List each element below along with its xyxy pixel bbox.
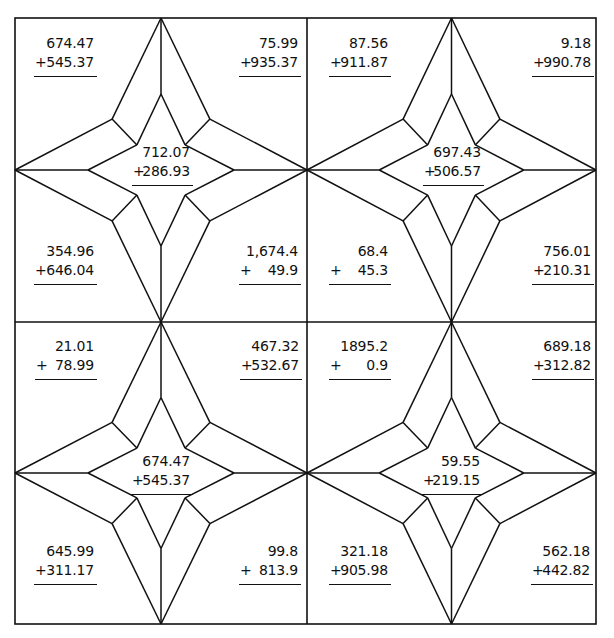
star-outer-edge xyxy=(210,119,307,170)
problem-c3-top-left: 1895.2 +0.9 xyxy=(329,337,391,381)
plus-sign: + xyxy=(35,561,47,580)
addend-2: 990.78 xyxy=(543,53,591,72)
problem-c2-bottom-right: 99.8 +813.9 xyxy=(239,542,301,586)
answer-line xyxy=(240,379,302,380)
problem-c0-bottom-left: 354.96 +646.04 xyxy=(34,242,97,286)
addend-1: 674.47 xyxy=(46,34,94,53)
plus-sign: + xyxy=(36,356,48,375)
answer-line xyxy=(35,379,97,380)
addend-1: 1895.2 xyxy=(340,337,388,356)
star-inner-edge xyxy=(452,498,476,549)
problem-c1-bottom-right: 756.01 +210.31 xyxy=(532,242,594,286)
problem-c0-bottom-right: 1,674.4 +49.9 xyxy=(239,242,301,286)
addend-2: 442.82 xyxy=(542,561,590,580)
star-shoulder-connector xyxy=(475,422,500,448)
addend-2: 311.17 xyxy=(46,561,94,580)
problem-c1-bottom-left: 68.4 +45.3 xyxy=(329,242,391,286)
plus-sign: + xyxy=(330,356,342,375)
star-outer-edge xyxy=(403,322,451,422)
star-outer-edge xyxy=(500,170,596,221)
star-outer-edge xyxy=(500,119,596,170)
star-outer-edge xyxy=(307,473,403,524)
answer-line xyxy=(239,584,301,585)
star-outer-edge xyxy=(307,422,403,473)
plus-sign: + xyxy=(240,561,252,580)
star-outer-edge xyxy=(15,170,112,221)
answer-line xyxy=(329,584,391,585)
addend-2: 646.04 xyxy=(46,261,94,280)
plus-sign: + xyxy=(35,53,47,72)
answer-line xyxy=(422,494,483,495)
addend-1: 1,674.4 xyxy=(246,242,298,261)
addend-1: 712.07 xyxy=(142,143,190,162)
addend-1: 99.8 xyxy=(268,542,298,561)
answer-line xyxy=(329,284,391,285)
addend-1: 21.01 xyxy=(55,337,94,356)
star-outer-edge xyxy=(161,524,210,624)
star-outer-edge xyxy=(210,170,307,221)
star-inner-edge xyxy=(428,195,452,246)
star-inner-edge xyxy=(379,145,427,170)
star-outer-edge xyxy=(210,422,307,473)
addend-1: 321.18 xyxy=(340,542,388,561)
answer-line xyxy=(423,185,484,186)
answer-line xyxy=(329,379,391,380)
answer-line xyxy=(239,76,301,77)
answer-line xyxy=(132,185,193,186)
star-inner-edge xyxy=(428,94,452,145)
addend-2: 532.67 xyxy=(251,356,299,375)
addend-2: 545.37 xyxy=(142,471,190,490)
addend-1: 9.18 xyxy=(561,34,591,53)
star-outer-edge xyxy=(500,422,596,473)
plus-sign: + xyxy=(35,261,47,280)
star-inner-edge xyxy=(88,170,137,195)
star-outer-edge xyxy=(15,119,112,170)
star-outer-edge xyxy=(307,119,403,170)
star-inner-edge xyxy=(428,398,452,449)
star-shoulder-connector xyxy=(475,119,500,145)
addend-2: 545.37 xyxy=(46,53,94,72)
addend-2: 935.37 xyxy=(250,53,298,72)
problem-c3-top-right: 689.18 +312.82 xyxy=(532,337,594,381)
star-shoulder-connector xyxy=(475,195,500,221)
answer-line xyxy=(131,494,193,495)
star-inner-edge xyxy=(428,498,452,549)
star-inner-edge xyxy=(88,473,137,498)
addend-2: 813.9 xyxy=(259,561,298,580)
addend-2: 506.57 xyxy=(433,162,481,181)
star-outer-edge xyxy=(403,221,451,322)
star-shoulder-connector xyxy=(185,498,210,524)
addend-1: 674.47 xyxy=(142,452,190,471)
addend-2: 905.98 xyxy=(340,561,388,580)
answer-line xyxy=(34,584,97,585)
star-inner-edge xyxy=(379,473,427,498)
star-outer-edge xyxy=(112,18,161,119)
star-inner-edge xyxy=(452,195,476,246)
grid-frame xyxy=(15,18,596,624)
addition-worksheet: 674.47 +545.37 75.99 +935.37 712.07 +286… xyxy=(0,0,614,638)
answer-line xyxy=(532,284,594,285)
addend-2: 312.82 xyxy=(543,356,591,375)
addend-1: 645.99 xyxy=(46,542,94,561)
star-outer-edge xyxy=(161,322,210,422)
star-inner-edge xyxy=(452,94,476,145)
addend-1: 689.18 xyxy=(543,337,591,356)
problem-c2-center: 674.47 +545.37 xyxy=(131,452,193,496)
addend-1: 87.56 xyxy=(349,34,388,53)
star-shoulder-connector xyxy=(403,498,428,524)
star-inner-edge xyxy=(452,398,476,449)
problem-c1-top-left: 87.56 +911.87 xyxy=(329,34,391,78)
problem-c2-bottom-left: 645.99 +311.17 xyxy=(34,542,97,586)
addend-1: 562.18 xyxy=(542,542,590,561)
star-shoulder-connector xyxy=(112,195,137,221)
addend-2: 49.9 xyxy=(268,261,298,280)
star-shoulder-connector xyxy=(185,119,210,145)
addend-2: 219.15 xyxy=(432,471,480,490)
star-shoulder-connector xyxy=(112,422,137,448)
addend-1: 354.96 xyxy=(46,242,94,261)
problem-c1-top-right: 9.18 +990.78 xyxy=(532,34,594,78)
answer-line xyxy=(531,584,593,585)
answer-line xyxy=(34,76,97,77)
problem-c2-top-right: 467.32 +532.67 xyxy=(240,337,302,381)
star-outer-edge xyxy=(15,473,112,524)
